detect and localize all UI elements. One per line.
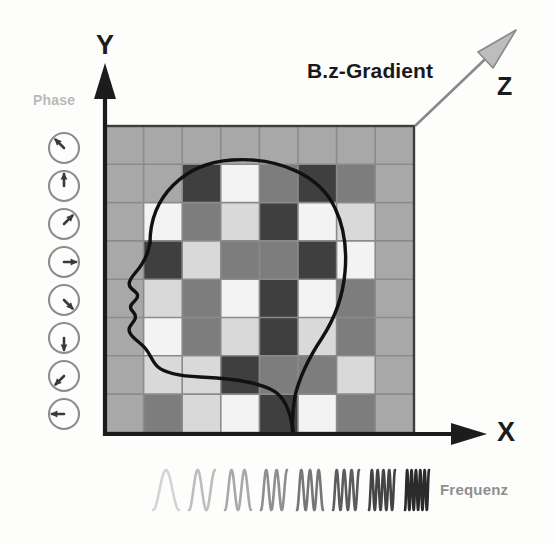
phase-clock-4 <box>49 247 79 277</box>
freq-wave-6 <box>333 470 359 510</box>
grid-cell <box>221 279 260 317</box>
grid-cell <box>182 318 221 356</box>
phase-clock-7 <box>49 361 79 391</box>
freq-wave-4 <box>261 470 287 510</box>
grid-cell <box>182 394 221 432</box>
phase-label: Phase <box>33 93 75 107</box>
frequency-wave-row <box>153 470 429 510</box>
grid-cell <box>337 394 376 432</box>
y-axis-label: Y <box>96 32 114 59</box>
grid-cell <box>298 279 337 317</box>
freq-wave-8 <box>405 470 429 510</box>
grid-cell <box>221 241 260 279</box>
phase-clock-8 <box>49 399 79 429</box>
grid-cell <box>221 356 260 394</box>
grid-cell <box>182 279 221 317</box>
grid-cell <box>221 318 260 356</box>
grid-cell <box>298 356 337 394</box>
figure-canvas: Y X B.z-Gradient Z Phase Frequenz <box>0 0 554 545</box>
grid-cell <box>337 356 376 394</box>
freq-wave-2 <box>189 470 215 510</box>
grid-cell <box>298 203 337 241</box>
grid-cell <box>221 203 260 241</box>
freq-wave-5 <box>297 470 323 510</box>
x-axis-label: X <box>497 419 515 446</box>
schematic-svg <box>0 0 554 545</box>
grid-cell <box>298 394 337 432</box>
checkerboard-grid <box>105 126 414 433</box>
grid-cell <box>337 318 376 356</box>
grid-cell <box>298 241 337 279</box>
grid-cell <box>259 318 298 356</box>
bz-gradient-label: B.z-Gradient <box>307 60 433 81</box>
grid-cell <box>182 241 221 279</box>
z-axis-label: Z <box>497 74 512 99</box>
freq-wave-7 <box>369 470 395 510</box>
grid-cell <box>259 279 298 317</box>
grid-cell <box>221 164 260 202</box>
grid-cell <box>337 164 376 202</box>
grid-cell <box>144 394 183 432</box>
grid-cell <box>259 203 298 241</box>
freq-wave-3 <box>225 470 251 510</box>
grid-cell <box>144 279 183 317</box>
phase-clock-2 <box>49 171 79 201</box>
phase-clock-5 <box>49 285 79 315</box>
grid-cell <box>182 203 221 241</box>
phase-clock-1 <box>49 133 79 163</box>
grid-cell <box>337 241 376 279</box>
phase-clock-6 <box>49 323 79 353</box>
grid-cell <box>182 164 221 202</box>
grid-cell <box>259 241 298 279</box>
grid-cell <box>144 318 183 356</box>
freq-wave-1 <box>153 470 179 510</box>
grid-cell <box>221 394 260 432</box>
phase-clock-3 <box>49 209 79 239</box>
phase-clock-column <box>49 133 79 429</box>
frequenz-label: Frequenz <box>440 482 508 497</box>
